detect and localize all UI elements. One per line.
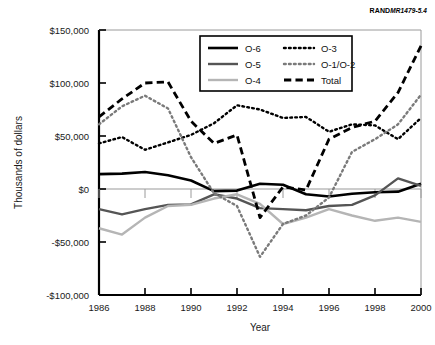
x-axis-tick-label: 1996 [318,302,339,313]
legend-label-total: Total [321,75,341,86]
source-note: RANDMR1479-5.4 [370,7,427,14]
x-axis-tick-label: 1988 [134,302,155,313]
y-axis-tick-label: $100,000 [49,78,89,89]
y-axis-tick-label: $0 [78,184,89,195]
legend-label-o-6: O-6 [245,43,261,54]
source-note-brand: RAND [370,7,391,14]
series-line-o-3 [99,105,421,150]
y-axis-tick-label: $50,000 [55,131,89,142]
x-axis-tick-label: 1990 [180,302,201,313]
legend-label-o-5: O-5 [245,59,261,70]
line-chart-svg: $150,000$100,000$50,000$0-$50,000-$100,0… [0,0,435,345]
series-line-o-1-o-2 [99,95,421,257]
legend-label-o-4: O-4 [245,75,261,86]
x-axis-title: Year [250,322,271,333]
x-axis-tick-labels: 19861988199019921994199619982000 [88,302,431,313]
chart-figure: RANDMR1479-5.4 $150,000$100,000$50,000$0… [0,0,435,345]
x-axis-tick-label: 1998 [364,302,385,313]
y-axis-tick-label: -$50,000 [51,237,89,248]
y-axis-tick-label: $150,000 [49,25,89,36]
legend-label-o-1-o-2: O-1/O-2 [321,59,355,70]
y-axis-tick-label: -$100,000 [46,290,89,301]
x-axis-tick-label: 2000 [410,302,431,313]
x-axis-tick-label: 1986 [88,302,109,313]
y-axis-title: Thousands of dollars [13,116,24,209]
y-axis-tick-labels: $150,000$100,000$50,000$0-$50,000-$100,0… [46,25,89,301]
legend-label-o-3: O-3 [321,43,337,54]
series-line-o-6 [99,172,421,196]
x-axis-tick-label: 1994 [272,302,293,313]
chart-legend: O-6O-5O-4O-3O-1/O-2Total [200,36,355,91]
x-axis-tick-label: 1992 [226,302,247,313]
source-note-id: MR1479-5.4 [390,7,427,14]
